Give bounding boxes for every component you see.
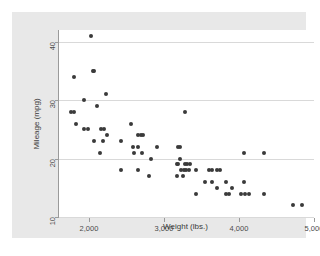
scatter-point [132, 151, 136, 155]
scatter-point [183, 110, 187, 114]
scatter-point [194, 192, 198, 196]
y-axis-title: Mileage (mpg) [31, 30, 42, 217]
y-tick-label-20: 20 [49, 159, 57, 167]
scatter-point [188, 162, 192, 166]
scatter-point [242, 180, 246, 184]
scatter-point [72, 75, 76, 79]
scatter-point [210, 168, 214, 172]
graph-region: 102030402,0003,0004,0005,000 Mileage (mp… [12, 12, 306, 238]
scatter-point [89, 34, 93, 38]
scatter-point [119, 168, 123, 172]
scatter-point [149, 157, 153, 161]
gridline-y-30 [59, 100, 314, 101]
scatter-point [262, 192, 266, 196]
y-axis-title-text: Mileage (mpg) [32, 98, 42, 149]
y-tick-label-30: 30 [49, 100, 57, 108]
scatter-point [102, 127, 106, 131]
scatter-point [187, 168, 191, 172]
scatter-point [178, 157, 182, 161]
scatter-point [227, 192, 231, 196]
scatter-point [194, 168, 198, 172]
scatter-point [210, 180, 214, 184]
scatter-point [175, 174, 179, 178]
gridline-y-40 [59, 42, 314, 43]
plot-area: 102030402,0003,0004,0005,000 [58, 30, 314, 218]
scatter-point [101, 139, 105, 143]
scatter-point [131, 145, 135, 149]
scatter-point [215, 186, 219, 190]
scatter-point [129, 122, 133, 126]
scatter-point [242, 151, 246, 155]
scatter-plot-figure: 102030402,0003,0004,0005,000 Mileage (mp… [0, 0, 318, 256]
x-tick-5000 [314, 218, 315, 222]
scatter-point [262, 151, 266, 155]
x-axis-title-text: Weight (lbs.) [58, 222, 313, 232]
scatter-point [136, 168, 140, 172]
scatter-point [104, 92, 108, 96]
scatter-point [291, 203, 295, 207]
scatter-point [230, 186, 234, 190]
scatter-point [92, 139, 96, 143]
scatter-point [141, 133, 145, 137]
scatter-point [72, 110, 76, 114]
scatter-point [247, 192, 251, 196]
scatter-point [218, 168, 222, 172]
scatter-point [105, 133, 109, 137]
scatter-point [74, 122, 78, 126]
scatter-point [136, 145, 140, 149]
scatter-point [82, 98, 86, 102]
scatter-point [176, 162, 180, 166]
scatter-point [147, 174, 151, 178]
scatter-point [92, 69, 96, 73]
scatter-point [224, 180, 228, 184]
scatter-point [95, 104, 99, 108]
y-tick-label-10: 10 [49, 217, 57, 225]
gridline-y-20 [59, 159, 314, 160]
scatter-point [119, 139, 123, 143]
scatter-point [82, 127, 86, 131]
scatter-point [181, 174, 185, 178]
scatter-point [178, 145, 182, 149]
scatter-point [203, 180, 207, 184]
gridline-y-10 [59, 217, 314, 218]
scatter-point [98, 151, 102, 155]
y-tick-label-40: 40 [49, 42, 57, 50]
scatter-point [155, 145, 159, 149]
scatter-point [300, 203, 304, 207]
scatter-point [86, 127, 90, 131]
scatter-point [140, 151, 144, 155]
